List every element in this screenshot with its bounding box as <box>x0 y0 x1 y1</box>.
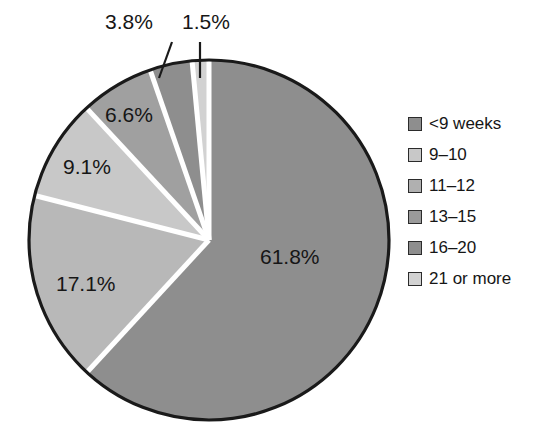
legend-item-9-10: 9–10 <box>408 139 554 170</box>
pie-chart-figure: 61.8% 17.1% 9.1% 6.6% 3.8% 1.5% <9 weeks… <box>0 0 558 446</box>
slice-value-label-11-12: 9.1% <box>63 155 111 179</box>
legend-label: 21 or more <box>429 270 511 287</box>
slice-value-label-21-or-more: 1.5% <box>182 10 230 34</box>
legend-label: 9–10 <box>429 146 467 163</box>
legend-swatch-icon <box>408 210 422 224</box>
slice-value-label-under-9-weeks: 61.8% <box>260 245 320 269</box>
slice-value-label-9-10: 17.1% <box>56 272 116 296</box>
legend-swatch-icon <box>408 241 422 255</box>
legend-swatch-icon <box>408 117 422 131</box>
legend-label: 11–12 <box>429 177 475 194</box>
chart-legend: <9 weeks 9–10 11–12 13–15 16–20 21 or mo… <box>408 108 554 294</box>
slice-value-label-13-15: 6.6% <box>105 103 153 127</box>
legend-label: <9 weeks <box>429 115 501 132</box>
legend-swatch-icon <box>408 179 422 193</box>
slice-value-label-16-20: 3.8% <box>105 10 153 34</box>
legend-item-13-15: 13–15 <box>408 201 554 232</box>
legend-swatch-icon <box>408 272 422 286</box>
legend-item-11-12: 11–12 <box>408 170 554 201</box>
legend-item-16-20: 16–20 <box>408 232 554 263</box>
legend-item-under-9-weeks: <9 weeks <box>408 108 554 139</box>
legend-swatch-icon <box>408 148 422 162</box>
legend-item-21-or-more: 21 or more <box>408 263 554 294</box>
legend-label: 16–20 <box>429 239 476 256</box>
legend-label: 13–15 <box>429 208 476 225</box>
